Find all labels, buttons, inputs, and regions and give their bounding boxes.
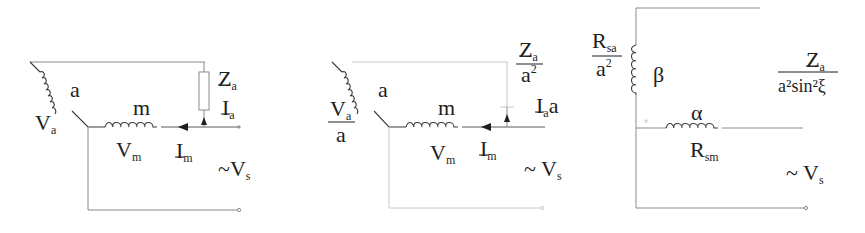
r-sm-label: Rsm [690, 137, 719, 164]
beta-label: β [653, 62, 664, 87]
aux-current-arrow-icon [504, 114, 510, 122]
impedance-numerator: Za [519, 37, 538, 64]
aux-lead-bottom [72, 111, 105, 127]
main-winding-coil-icon [105, 123, 157, 128]
source-voltage-label: ~ Vs [786, 160, 824, 187]
main-current-label: Im [480, 136, 497, 163]
main-current-arrow-icon [481, 123, 491, 131]
aux-winding-coil-icon [40, 72, 56, 114]
aux-voltage-numerator: Va [330, 96, 352, 123]
aux-voltage-label: Va [35, 110, 57, 137]
aux-current-label: Iaa [536, 93, 559, 120]
main-voltage-label: Vm [430, 140, 456, 167]
r-sa-numerator: Rsa [592, 28, 617, 55]
circuit-diagram: a Va m Vm Za Ia Im ~Vs a Va a m Vm Im [0, 0, 865, 233]
aux-lead-top [30, 62, 40, 72]
terminal-icon [540, 206, 543, 209]
terminal-icon [237, 208, 240, 211]
alpha-label: α [691, 100, 703, 125]
main-winding-label: m [133, 95, 150, 120]
main-winding-label: m [438, 95, 455, 120]
aux-winding-label: a [70, 77, 80, 102]
aux-current-label: Ia [222, 95, 235, 122]
impedance-denominator: a2 [521, 62, 537, 87]
main-current-arrow-icon [178, 123, 188, 131]
aux-voltage-denominator: a [336, 122, 346, 147]
terminal-icon [804, 206, 807, 209]
main-current-label: Im [176, 138, 193, 165]
panel-original-circuit: a Va m Vm Za Ia Im ~Vs [30, 62, 251, 212]
impedance-label: Za [218, 66, 237, 93]
impedance-za-box [199, 72, 209, 110]
source-voltage-label: ~ Vs [524, 156, 562, 183]
r-sa-denominator: a2 [596, 56, 612, 81]
main-winding-coil-icon [406, 123, 458, 128]
panel-referred-circuit: a Va a m Vm Im Za a2 Iaa ~ Vs [328, 37, 562, 210]
impedance-numerator: Za [806, 47, 825, 74]
aux-winding-label: a [378, 77, 388, 102]
aux-lead-bottom [374, 111, 406, 127]
panel-equivalent-circuit: Rsa a2 β α Rsm Za a²sin²ξ ~ Vs [592, 8, 838, 210]
terminal-icon [645, 120, 647, 122]
aux-current-arrow-icon [201, 117, 207, 125]
aux-lead-top [332, 62, 342, 72]
impedance-denominator: a²sin²ξ [778, 76, 826, 96]
main-voltage-label: Vm [116, 137, 142, 164]
beta-winding-coil-icon [632, 45, 637, 95]
source-voltage-label: ~Vs [218, 156, 251, 183]
